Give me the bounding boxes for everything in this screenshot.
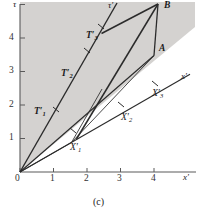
tau-tick-label-3: 3 bbox=[9, 66, 14, 76]
x-tick-label-2: 2 bbox=[84, 174, 89, 184]
point-sub-T3: 3 bbox=[94, 34, 97, 41]
x-tick-label-4: 4 bbox=[151, 174, 156, 184]
point-sub-X1: 1 bbox=[78, 146, 81, 153]
tau-tick-label-1: 1 bbox=[9, 133, 14, 143]
vertex-label-B: B bbox=[164, 1, 170, 11]
tau-tick-label-2: 2 bbox=[9, 100, 14, 110]
point-sub-X2: 2 bbox=[129, 116, 132, 123]
figure-caption: (c) bbox=[93, 196, 104, 207]
x-tick-label-0: 0 bbox=[15, 174, 20, 184]
point-sub-T1: 1 bbox=[42, 110, 45, 117]
tau-tick-label-4: 4 bbox=[9, 33, 14, 43]
tau-prime-axis-label: τ′ bbox=[108, 1, 113, 10]
x-tick-label-3: 3 bbox=[117, 174, 122, 184]
x-prime-axis-label: x′ bbox=[181, 72, 187, 81]
point-label-X3: X′3 bbox=[152, 89, 163, 99]
figure-panel: 0 1 2 3 4 1 2 3 4 τ x′ τ′ x′ T′1 T′2 T′3… bbox=[0, 0, 202, 214]
tau-axis-label: τ bbox=[13, 0, 16, 9]
point-sub-X3: 3 bbox=[160, 92, 163, 99]
x-axis-prime-mark: ′ bbox=[187, 172, 189, 182]
x-axis-label: x′ bbox=[183, 173, 189, 182]
point-label-T1: T′1 bbox=[34, 107, 46, 117]
point-label-X2: X′2 bbox=[121, 113, 132, 123]
point-label-X1: X′1 bbox=[70, 143, 81, 153]
spacetime-diagram-svg bbox=[0, 0, 202, 214]
x-tick-marks bbox=[20, 168, 154, 172]
x-prime-mark: ′ bbox=[185, 71, 187, 81]
point-label-T2: T′2 bbox=[61, 69, 73, 79]
x-tick-label-1: 1 bbox=[50, 174, 55, 184]
point-label-T3: T′3 bbox=[86, 31, 98, 41]
point-sub-T2: 2 bbox=[69, 72, 72, 79]
vertex-label-A: A bbox=[159, 44, 165, 54]
tau-prime-mark: ′ bbox=[111, 0, 113, 10]
